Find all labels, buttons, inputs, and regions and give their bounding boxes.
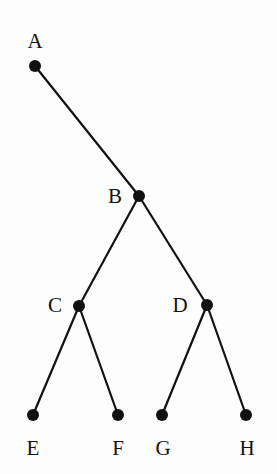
tree-node-c[interactable] [73,300,85,312]
tree-edge-b-d [139,196,207,305]
node-label-h: H [239,438,254,459]
tree-edge-a-b [35,66,139,196]
tree-edge-d-g [162,305,207,415]
tree-node-a[interactable] [29,60,41,72]
node-label-b: B [108,186,122,207]
tree-node-e[interactable] [27,409,39,421]
node-label-e: E [27,438,40,459]
tree-node-d[interactable] [201,299,213,311]
tree-edge-b-c [79,196,139,306]
node-label-a: A [27,31,42,52]
tree-node-h[interactable] [240,409,252,421]
node-layer [27,60,252,421]
tree-node-g[interactable] [156,409,168,421]
node-label-f: F [112,438,124,459]
node-label-c: C [48,295,62,316]
tree-graphics [0,0,277,474]
node-label-d: D [172,295,187,316]
node-label-g: G [155,438,170,459]
edge-layer [33,66,246,415]
tree-node-b[interactable] [133,190,145,202]
tree-diagram: ABCDEFGH [0,0,277,474]
tree-node-f[interactable] [112,409,124,421]
tree-edge-c-f [79,306,118,415]
tree-edge-d-h [207,305,246,415]
tree-edge-c-e [33,306,79,415]
